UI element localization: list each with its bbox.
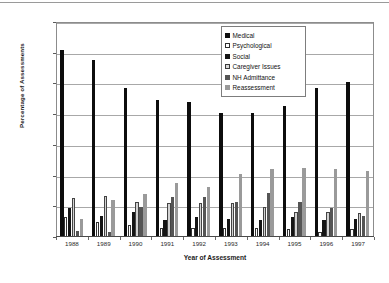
- bar-reassessment-1991: [175, 183, 178, 237]
- legend-item-nh-admittance: NH Admittance: [225, 72, 301, 83]
- bar-nh-admittance-1997: [362, 216, 365, 238]
- bar-social-1997: [354, 219, 357, 237]
- bar-medical-1991: [156, 100, 159, 237]
- bar-caregiver-issues-1994: [263, 207, 266, 237]
- bar-caregiver-issues-1990: [135, 202, 138, 237]
- bar-medical-1992: [187, 102, 190, 237]
- bar-caregiver-issues-1988: [72, 198, 75, 237]
- bar-nh-admittance-1993: [235, 202, 238, 237]
- x-axis-tick-label: 1991: [151, 240, 183, 252]
- x-axis-tick-label: 1995: [279, 240, 311, 252]
- bar-series-layer: [56, 22, 374, 237]
- bar-reassessment-1993: [239, 174, 242, 237]
- bar-social-1991: [163, 220, 166, 237]
- x-axis-title: Year of Assessment: [56, 254, 374, 261]
- bar-psychological-1989: [96, 222, 99, 237]
- bar-psychological-1988: [64, 217, 67, 237]
- x-axis-tick-label: 1994: [247, 240, 279, 252]
- bar-nh-admittance-1992: [203, 197, 206, 237]
- legend-swatch-icon: [225, 64, 230, 69]
- bar-reassessment-1989: [111, 200, 114, 237]
- legend-item-label: NH Admittance: [233, 74, 276, 81]
- bar-social-1988: [68, 208, 71, 237]
- legend-swatch-icon: [225, 33, 230, 38]
- legend-item-medical: Medical: [225, 30, 301, 41]
- bar-social-1996: [322, 220, 325, 237]
- bar-medical-1988: [60, 50, 63, 237]
- bar-medical-1994: [251, 113, 254, 237]
- bar-medical-1990: [124, 88, 127, 237]
- x-axis-tick-label: 1992: [183, 240, 215, 252]
- bar-caregiver-issues-1992: [199, 203, 202, 237]
- bar-reassessment-1992: [207, 187, 210, 237]
- legend-item-psychological: Psychological: [225, 41, 301, 52]
- bar-social-1989: [100, 216, 103, 238]
- bar-caregiver-issues-1996: [326, 212, 329, 237]
- x-axis-tick-label: 1993: [215, 240, 247, 252]
- x-axis-tick-label: 1996: [310, 240, 342, 252]
- legend-swatch-icon: [225, 75, 230, 80]
- x-axis-tick-label: 1990: [120, 240, 152, 252]
- bar-social-1993: [227, 219, 230, 237]
- legend-swatch-icon: [225, 43, 230, 48]
- bar-nh-admittance-1991: [171, 197, 174, 237]
- bar-reassessment-1994: [270, 169, 273, 237]
- bar-social-1994: [259, 220, 262, 237]
- x-axis-tick-labels: 1988198919901991199219931994199519961997: [56, 240, 374, 252]
- x-axis-tick-mark: [374, 237, 375, 240]
- legend-swatch-icon: [225, 85, 230, 90]
- legend-item-caregiver-issues: Caregiver Issues: [225, 62, 301, 73]
- bar-caregiver-issues-1995: [294, 212, 297, 237]
- bar-medical-1997: [346, 82, 349, 237]
- bar-group-1992: [183, 22, 215, 237]
- legend-item-label: Social: [233, 53, 250, 60]
- bar-reassessment-1988: [80, 219, 83, 237]
- bar-caregiver-issues-1993: [231, 203, 234, 237]
- legend-item-social: Social: [225, 51, 301, 62]
- legend: MedicalPsychologicalSocialCaregiver Issu…: [221, 26, 306, 97]
- bar-group-1990: [120, 22, 152, 237]
- bar-medical-1993: [219, 113, 222, 237]
- bar-social-1995: [291, 217, 294, 237]
- bar-social-1992: [195, 217, 198, 237]
- bar-group-1989: [88, 22, 120, 237]
- x-axis-tick-label: 1989: [88, 240, 120, 252]
- bar-social-1990: [132, 212, 135, 237]
- bar-medical-1989: [92, 60, 95, 237]
- y-axis-title: Percentage of Assessments: [18, 11, 25, 161]
- bar-group-1988: [56, 22, 88, 237]
- bar-group-1991: [151, 22, 183, 237]
- bar-medical-1996: [315, 88, 318, 237]
- bar-caregiver-issues-1989: [104, 196, 107, 237]
- legend-swatch-icon: [225, 54, 230, 59]
- legend-item-label: Psychological: [233, 42, 272, 49]
- legend-item-reassessment: Reassessment: [225, 83, 301, 94]
- bar-medical-1995: [283, 106, 286, 237]
- bar-nh-admittance-1995: [298, 202, 301, 237]
- bar-caregiver-issues-1991: [167, 203, 170, 237]
- bar-group-1997: [342, 22, 374, 237]
- legend-item-label: Caregiver Issues: [233, 63, 281, 70]
- figure-top-rule: [0, 2, 389, 3]
- bar-nh-admittance-1990: [139, 207, 142, 237]
- legend-item-label: Reassessment: [233, 84, 275, 91]
- bar-group-1996: [310, 22, 342, 237]
- bar-reassessment-1996: [334, 169, 337, 237]
- x-axis-tick-label: 1988: [56, 240, 88, 252]
- bar-nh-admittance-1994: [267, 193, 270, 237]
- legend-item-label: Medical: [233, 32, 255, 39]
- bar-nh-admittance-1996: [330, 208, 333, 237]
- x-axis-tick-label: 1997: [342, 240, 374, 252]
- bar-caregiver-issues-1997: [358, 213, 361, 237]
- chart-figure: Percentage of Assessments 01020304050607…: [0, 0, 389, 283]
- bar-reassessment-1997: [366, 171, 369, 237]
- bar-reassessment-1995: [302, 168, 305, 237]
- bar-reassessment-1990: [143, 194, 146, 237]
